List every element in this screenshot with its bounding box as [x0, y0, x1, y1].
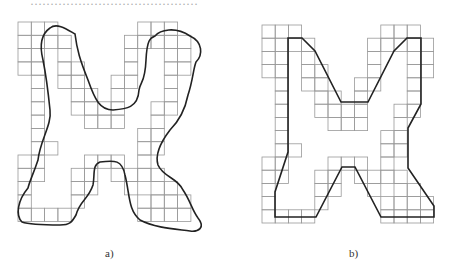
grid-cell — [58, 35, 71, 48]
grid-cell — [18, 168, 31, 181]
grid-cell — [151, 182, 164, 195]
grid-cell — [302, 78, 315, 91]
grid-cell — [407, 183, 420, 196]
caption-a: a) — [105, 247, 114, 259]
grid-cell — [381, 170, 394, 183]
grid-cell — [178, 49, 191, 62]
grid-cell — [420, 65, 433, 78]
grid-cell — [71, 75, 84, 88]
grid-cell — [407, 25, 420, 38]
grid-cell — [275, 38, 288, 51]
grid-cell — [85, 102, 98, 115]
grid-cell — [262, 157, 275, 170]
grid-cell — [164, 102, 177, 115]
grid-cell — [58, 208, 71, 221]
grid-cell — [288, 38, 301, 51]
grid-cell — [58, 75, 71, 88]
grid-cell — [262, 183, 275, 196]
grid-cell — [315, 91, 328, 104]
grid-cell — [407, 51, 420, 64]
grid-cell — [151, 115, 164, 128]
grid-cell — [275, 91, 288, 104]
diagram-canvas — [0, 0, 459, 268]
grid-cell — [124, 75, 137, 88]
grid-cell — [31, 115, 44, 128]
grid-cell — [381, 25, 394, 38]
grid-cell — [262, 210, 275, 223]
grid-cell — [164, 195, 177, 208]
grid-cell — [111, 168, 124, 181]
grid-cell — [71, 182, 84, 195]
grid-cell — [381, 144, 394, 157]
grid-cell — [111, 89, 124, 102]
grid-cell — [31, 102, 44, 115]
grid-cell — [31, 89, 44, 102]
grid-cell — [407, 65, 420, 78]
grid-cell — [18, 155, 31, 168]
grid-cell — [407, 197, 420, 210]
grid-cell — [164, 182, 177, 195]
grid-cell — [302, 65, 315, 78]
grid-cell — [288, 25, 301, 38]
grid-cell — [71, 168, 84, 181]
grid-cell — [275, 104, 288, 117]
grid-cell — [368, 170, 381, 183]
grid-cell — [368, 65, 381, 78]
grid-cell — [315, 183, 328, 196]
grid-cell — [394, 117, 407, 130]
grid-cell — [354, 170, 367, 183]
grid-cell — [302, 51, 315, 64]
grid-cell — [394, 104, 407, 117]
grid-cell — [394, 131, 407, 144]
grid-cell — [151, 128, 164, 141]
grid-cell — [18, 22, 31, 35]
grid-cell — [164, 49, 177, 62]
grid-cell — [164, 22, 177, 35]
grid-cell — [164, 75, 177, 88]
grid-cell — [178, 35, 191, 48]
grid-cell — [262, 170, 275, 183]
grid-cell — [315, 104, 328, 117]
grid-cell — [394, 144, 407, 157]
grid-cell — [420, 38, 433, 51]
grid-cell — [151, 102, 164, 115]
grid-cell — [381, 38, 394, 51]
grid-cell — [124, 35, 137, 48]
grid-cell — [111, 115, 124, 128]
grid-cell — [420, 51, 433, 64]
grid-cell — [164, 89, 177, 102]
grid-cell — [178, 208, 191, 221]
grid-cell — [275, 78, 288, 91]
grid-cell — [341, 117, 354, 130]
grid-cell — [407, 78, 420, 91]
grid-cell — [394, 170, 407, 183]
grid-cell — [85, 115, 98, 128]
grid-cell — [381, 131, 394, 144]
grid-cell — [368, 51, 381, 64]
grid-cell — [124, 49, 137, 62]
grid-cell — [45, 208, 58, 221]
grid-cell — [275, 25, 288, 38]
grid-cell — [315, 170, 328, 183]
grid-cell — [138, 195, 151, 208]
grid-cell — [31, 22, 44, 35]
grid-cell — [71, 89, 84, 102]
grid-cell — [315, 78, 328, 91]
grid-cell — [58, 49, 71, 62]
grid-cell — [18, 49, 31, 62]
grid-cell — [394, 25, 407, 38]
grid-cell — [275, 51, 288, 64]
grid-cell — [262, 197, 275, 210]
grid-cell — [288, 144, 301, 157]
grid-cell — [45, 35, 58, 48]
grid-cell — [138, 155, 151, 168]
grid-cell — [138, 128, 151, 141]
grid-cell — [381, 197, 394, 210]
grid-cell — [45, 22, 58, 35]
caption-b: b) — [349, 247, 358, 259]
grid-cell — [275, 65, 288, 78]
grid-cell — [151, 195, 164, 208]
grid-cell — [381, 157, 394, 170]
grid-cell — [164, 208, 177, 221]
grid-cell — [394, 183, 407, 196]
